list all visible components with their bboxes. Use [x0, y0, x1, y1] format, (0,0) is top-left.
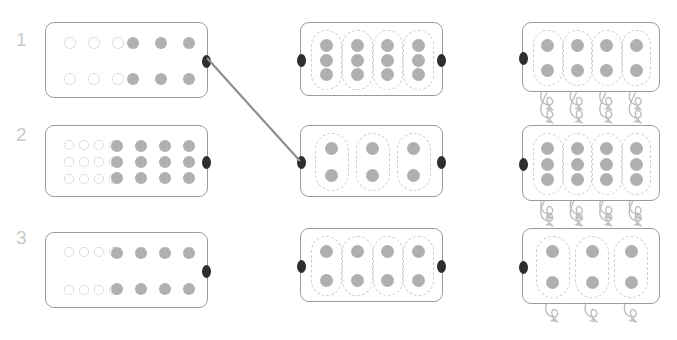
loop-arrow-in: [629, 93, 641, 123]
hollow-dot: [94, 157, 104, 167]
filled-dot: [571, 158, 584, 171]
filled-dot: [135, 140, 147, 152]
filled-dot: [325, 169, 338, 182]
hollow-dot: [88, 73, 100, 85]
row-label-1: 1: [16, 30, 27, 49]
panel-r3-middle[interactable]: [300, 228, 443, 302]
hollow-dot: [79, 157, 89, 167]
filled-dot: [135, 156, 147, 168]
port-left[interactable]: [297, 54, 306, 67]
port-right[interactable]: [202, 156, 211, 169]
filled-dot: [571, 173, 584, 186]
filled-dot: [630, 158, 643, 171]
filled-dot: [630, 173, 643, 186]
filled-dot: [320, 274, 333, 287]
filled-dot: [586, 245, 599, 258]
hollow-dot: [79, 140, 89, 150]
hollow-dot: [64, 37, 76, 49]
port-right[interactable]: [437, 54, 446, 67]
filled-dot: [155, 37, 167, 49]
filled-dot: [571, 64, 584, 77]
filled-dot: [111, 140, 123, 152]
filled-dot: [127, 73, 139, 85]
panel-r2-left[interactable]: [45, 125, 208, 197]
panel-r2-middle[interactable]: [300, 125, 443, 197]
hollow-dot: [94, 285, 104, 295]
filled-dot: [111, 283, 123, 295]
connector-r1left-to-r2middle: [207, 58, 300, 161]
filled-dot: [366, 142, 379, 155]
filled-dot: [325, 142, 338, 155]
panel-r3-left[interactable]: [45, 232, 208, 308]
filled-dot: [111, 172, 123, 184]
filled-dot: [135, 247, 147, 259]
filled-dot: [183, 172, 195, 184]
hollow-dot: [64, 140, 74, 150]
panel-r2-right[interactable]: [522, 125, 660, 201]
hollow-dot: [79, 285, 89, 295]
port-right[interactable]: [202, 55, 211, 68]
port-left[interactable]: [519, 261, 528, 274]
filled-dot: [159, 283, 171, 295]
filled-dot: [159, 156, 171, 168]
filled-dot: [625, 245, 638, 258]
loop-arrow-in: [570, 93, 582, 123]
hollow-dot: [64, 157, 74, 167]
filled-dot: [159, 172, 171, 184]
filled-dot: [111, 247, 123, 259]
filled-dot: [320, 39, 333, 52]
panel-r1-left[interactable]: [45, 22, 208, 98]
diagram-canvas: 123: [0, 0, 677, 340]
filled-dot: [412, 54, 425, 67]
panel-r3-right[interactable]: [522, 228, 660, 304]
hollow-dot: [112, 37, 124, 49]
panel-r1-right[interactable]: [522, 22, 660, 92]
filled-dot: [183, 283, 195, 295]
filled-dot: [625, 276, 638, 289]
hollow-dot: [94, 174, 104, 184]
filled-dot: [320, 245, 333, 258]
filled-dot: [159, 247, 171, 259]
hollow-dot: [94, 247, 104, 257]
port-left[interactable]: [297, 156, 306, 169]
loop-arrow-in: [541, 93, 553, 123]
port-left[interactable]: [519, 158, 528, 171]
hollow-dot: [79, 247, 89, 257]
filled-dot: [155, 73, 167, 85]
filled-dot: [135, 172, 147, 184]
loop-arrow-in: [600, 93, 612, 123]
filled-dot: [571, 142, 584, 155]
filled-dot: [351, 39, 364, 52]
filled-dot: [351, 68, 364, 81]
filled-dot: [320, 54, 333, 67]
filled-dot: [183, 247, 195, 259]
port-right[interactable]: [437, 156, 446, 169]
port-left[interactable]: [297, 260, 306, 273]
filled-dot: [183, 37, 195, 49]
filled-dot: [586, 276, 599, 289]
hollow-dot: [64, 285, 74, 295]
filled-dot: [351, 54, 364, 67]
port-right[interactable]: [437, 260, 446, 273]
filled-dot: [630, 39, 643, 52]
filled-dot: [407, 142, 420, 155]
filled-dot: [351, 245, 364, 258]
port-right[interactable]: [202, 265, 211, 278]
filled-dot: [407, 169, 420, 182]
filled-dot: [630, 64, 643, 77]
filled-dot: [600, 158, 613, 171]
filled-dot: [159, 140, 171, 152]
hollow-dot: [94, 140, 104, 150]
filled-dot: [320, 68, 333, 81]
hollow-dot: [64, 73, 76, 85]
filled-dot: [630, 142, 643, 155]
filled-dot: [571, 39, 584, 52]
panel-r1-middle[interactable]: [300, 22, 443, 96]
filled-dot: [183, 140, 195, 152]
filled-dot: [127, 37, 139, 49]
filled-dot: [183, 73, 195, 85]
filled-dot: [366, 169, 379, 182]
port-left[interactable]: [519, 52, 528, 65]
filled-dot: [351, 274, 364, 287]
hollow-dot: [79, 174, 89, 184]
